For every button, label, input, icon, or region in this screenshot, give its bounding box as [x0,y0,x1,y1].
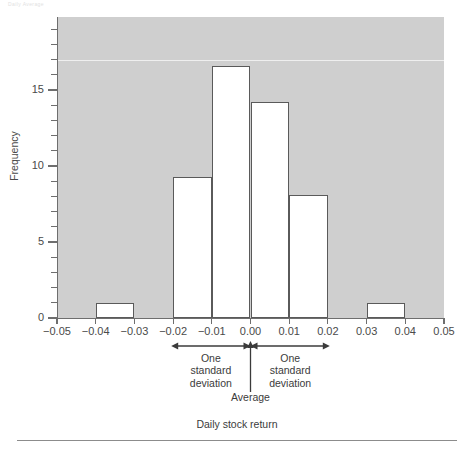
x-axis-tick [134,318,135,324]
y-axis-tick-label: 5 [0,235,44,247]
plot-area [57,17,444,318]
y-axis-minor-tick [51,150,57,151]
annotation-line: One [166,352,256,364]
x-axis-tick [289,318,290,324]
y-axis-major-tick [48,89,57,90]
x-axis-tick-label: 0.05 [415,325,473,337]
annotation-line: standard [245,364,335,376]
y-axis-tick-label: 10 [0,159,44,171]
y-axis-minor-tick [51,211,57,212]
y-axis-minor-tick [51,120,57,121]
annotation-line: deviation [166,377,256,389]
one-standard-deviation-left: Onestandarddeviation [166,352,256,389]
x-axis-tick [211,318,212,324]
y-axis-minor-tick [51,44,57,45]
x-axis-tick [327,318,328,324]
histogram-figure: Daily Average 051015 −0.05−0.04−0.03−0.0… [0,0,474,451]
histogram-bar [289,195,328,318]
y-axis-minor-tick [51,287,57,288]
histogram-bar [251,102,290,318]
y-axis-tick-label: 0 [0,311,44,323]
y-axis-title: Frequency [8,96,20,216]
x-axis-title: Daily stock return [0,418,474,430]
y-axis-minor-tick [51,257,57,258]
annotation-line: deviation [245,377,335,389]
y-axis-minor-tick [51,272,57,273]
x-axis-tick [56,318,57,324]
bottom-divider [17,440,457,441]
y-axis-minor-tick [51,59,57,60]
x-axis-tick [95,318,96,324]
y-axis-minor-tick [51,135,57,136]
x-axis-tick [366,318,367,324]
y-axis-minor-tick [51,29,57,30]
y-axis-tick-label: 15 [0,83,44,95]
histogram-bar [212,66,251,318]
y-axis-minor-tick [51,181,57,182]
histogram-bar [96,303,135,318]
faint-header-text: Daily Average [8,1,44,7]
y-axis-major-tick [48,165,57,166]
y-axis-minor-tick [51,105,57,106]
y-axis-line [57,17,58,319]
annotation-line: One [245,352,335,364]
histogram-bar [367,303,406,318]
x-axis-tick [250,318,251,324]
y-axis-minor-tick [51,302,57,303]
y-axis-major-tick [48,241,57,242]
average-label: Average [201,391,301,403]
x-axis-tick [405,318,406,324]
y-axis-minor-tick [51,196,57,197]
y-axis-minor-tick [51,226,57,227]
y-axis-minor-tick [51,74,57,75]
x-axis-tick [443,318,444,324]
one-standard-deviation-right: Onestandarddeviation [245,352,335,389]
x-axis-tick [173,318,174,324]
gridline [57,60,444,61]
annotation-line: standard [166,364,256,376]
histogram-bar [173,177,212,318]
